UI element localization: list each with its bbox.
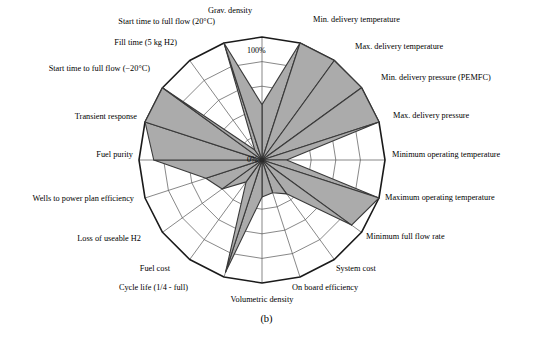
- axis-label: Start time to full flow (20°C): [0, 18, 215, 26]
- axis-label: Min. delivery temperature: [313, 16, 400, 24]
- axis-label: Fuel purity: [0, 151, 133, 159]
- axis-label: Volumetric density: [0, 296, 524, 304]
- axis-label: Cycle life (1/4 - full): [0, 284, 188, 292]
- axis-label: On board efficiency: [292, 284, 358, 292]
- center-point: [259, 157, 264, 162]
- axis-label: Minimum full flow rate: [366, 233, 445, 241]
- axis-label: Maximum operating temperature: [385, 194, 495, 202]
- radar-chart-figure: Grav. densityMin. delivery temperatureMa…: [0, 0, 533, 337]
- axis-label: Minimum operating temperature: [392, 151, 500, 159]
- axis-label: Fuel cost: [0, 265, 170, 273]
- figure-caption: (b): [0, 313, 533, 324]
- axis-label: Transient response: [0, 113, 137, 121]
- axis-label: Min. delivery pressure (PEMFC): [381, 74, 491, 82]
- tick-label-outer: 100%: [247, 47, 266, 55]
- axis-label: Wells to power plan efficiency: [0, 195, 134, 203]
- axis-label: Max. delivery temperature: [355, 43, 443, 51]
- center-hub: [259, 157, 264, 162]
- axis-label: Start time to full flow (−20°C): [0, 65, 150, 73]
- axis-label: System cost: [336, 265, 376, 273]
- axis-label: Max. delivery pressure: [393, 112, 469, 120]
- axis-label: Loss of useable H2: [0, 235, 141, 243]
- axis-label: Fill time (5 kg H2): [0, 39, 177, 47]
- tick-label-center: 0%: [247, 156, 258, 164]
